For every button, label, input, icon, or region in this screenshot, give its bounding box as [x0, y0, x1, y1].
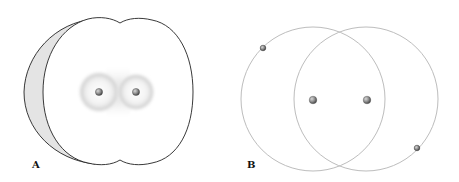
panel-a-electron-cloud	[24, 18, 193, 165]
electron-icon	[414, 145, 420, 151]
nucleus-icon	[363, 96, 371, 104]
electron-icon	[260, 45, 266, 51]
nucleus-icon	[309, 96, 317, 104]
nucleus-icon	[95, 88, 102, 95]
panel-b-orbit-model	[241, 27, 438, 171]
nucleus-icon	[132, 88, 139, 95]
panel-label-a: A	[32, 159, 40, 170]
panel-label-b: B	[247, 159, 255, 170]
figure-canvas	[0, 0, 459, 182]
